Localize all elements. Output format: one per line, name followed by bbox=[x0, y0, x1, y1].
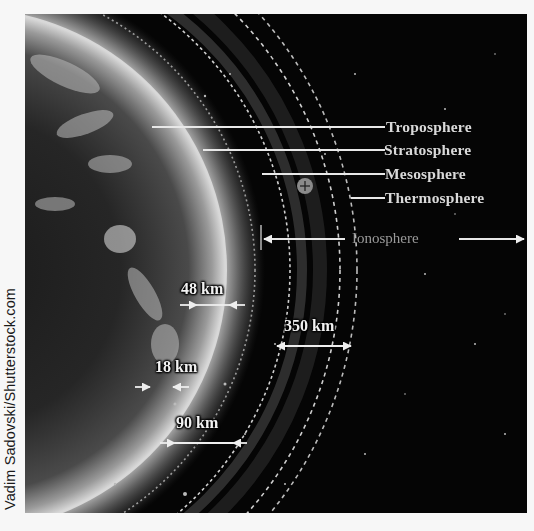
image-credit: Vadim Sadovski/Shutterstock.com bbox=[2, 255, 18, 510]
label-90km: 90 km bbox=[176, 414, 218, 432]
positive-ion-icon bbox=[297, 178, 313, 194]
label-thermosphere: Thermosphere bbox=[385, 189, 484, 207]
label-18km: 18 km bbox=[155, 358, 197, 376]
atmosphere-diagram: Troposphere Stratosphere Mesosphere Ther… bbox=[25, 14, 527, 513]
label-ionosphere: Ionosphere bbox=[352, 230, 419, 247]
label-350km: 350 km bbox=[284, 317, 334, 335]
label-stratosphere: Stratosphere bbox=[384, 141, 471, 159]
label-48km: 48 km bbox=[181, 280, 223, 298]
label-mesosphere: Mesosphere bbox=[385, 165, 466, 183]
label-troposphere: Troposphere bbox=[386, 118, 472, 136]
atmosphere-scene bbox=[25, 14, 527, 513]
